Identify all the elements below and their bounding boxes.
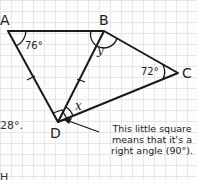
angle-arc-d [66,107,73,116]
right-angle-callout: This little square means that it's a rig… [106,123,197,156]
angle-label-b: y [97,44,104,56]
vertex-label-d: D [50,126,61,140]
vertex-label-b: B [99,13,109,27]
vertex-label-c: C [182,66,192,80]
fragment-text-left: 28°. [0,120,23,131]
angle-label-a: 76° [25,41,43,51]
geometry-diagram: A B C D 76° y 72° x 28°. H This little s… [0,0,197,180]
angle-arc-c [163,65,165,79]
callout-arrow-line [66,120,99,132]
angle-label-d: x [75,100,82,112]
vertex-label-a: A [0,13,10,27]
angle-label-c: 72° [141,67,159,77]
fragment-text-bottom: H [0,172,8,180]
